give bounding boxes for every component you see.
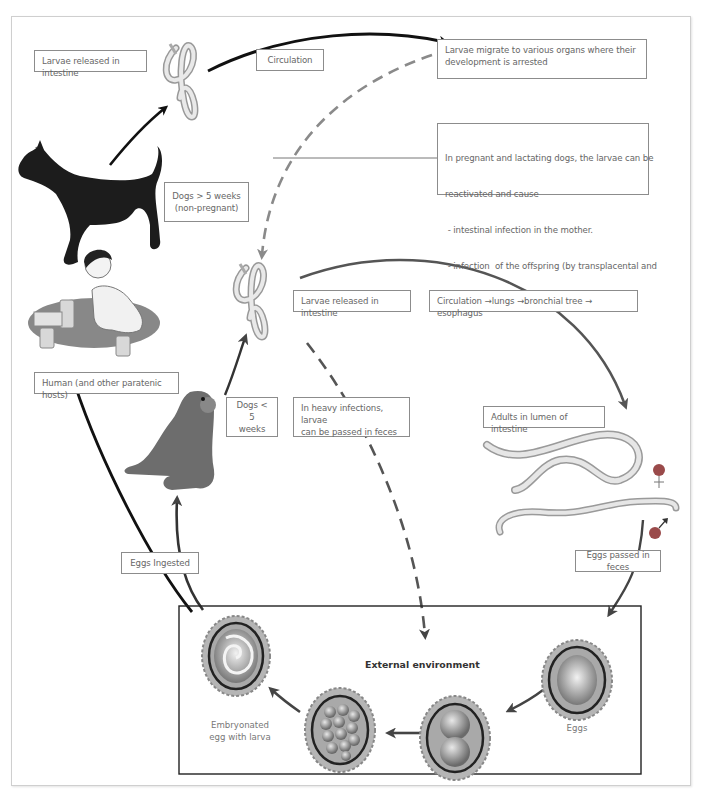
adult-worms-icon: [487, 435, 676, 532]
label-adults-lumen: Adults in lumen of intestine: [483, 406, 605, 428]
male-symbol-icon: [649, 518, 668, 539]
adult-dog-icon: [18, 140, 162, 265]
human-host-icon: [28, 250, 160, 356]
egg-two-cell-icon: [420, 696, 490, 780]
label-human-paratenic-hosts: Human (and other paratenic hosts): [34, 372, 179, 394]
label-eggs-passed-feces: Eggs passed in feces: [575, 550, 661, 572]
label-embryonated-egg: Embryonated egg with larva: [196, 719, 284, 743]
label-circulation-route: Circulation →lungs →bronchial tree → eso…: [429, 290, 638, 312]
label-eggs: Eggs: [562, 722, 592, 734]
egg-stage-arrow-1: [510, 690, 543, 710]
label-circulation: Circulation: [256, 49, 324, 71]
label-larvae-migrate: Larvae migrate to various organs where t…: [437, 39, 647, 79]
puppy-icon: [125, 391, 216, 490]
puppy-to-larva-arrow: [225, 338, 245, 395]
label-larvae-released-top: Larvae released in intestine: [34, 50, 147, 72]
egg-morula-icon: [305, 688, 375, 772]
larva-icon-mid: [236, 264, 265, 337]
label-heavy-infections: In heavy infections, larvae can be passe…: [293, 397, 410, 437]
label-eggs-ingested: Eggs Ingested: [121, 552, 199, 574]
egg-embryonated-icon: [202, 616, 270, 696]
female-symbol-icon: [653, 464, 665, 488]
label-larvae-released-mid: Larvae released in intestine: [293, 290, 411, 312]
reactivation-dashed-arrow: [262, 55, 432, 255]
label-dogs-under-5-weeks: Dogs < 5 weeks: [226, 397, 278, 437]
label-pregnant-lactating-note: In pregnant and lactating dogs, the larv…: [437, 123, 649, 195]
egg-unembryonated-icon: [542, 640, 612, 720]
dog-to-larva-arrow: [110, 108, 165, 165]
circulation-arrow: [208, 34, 445, 71]
label-dogs-over-5-weeks: Dogs > 5 weeks (non-pregnant): [164, 182, 249, 222]
external-environment-title: External environment: [365, 659, 480, 670]
egg-stage-arrow-3: [272, 690, 300, 712]
larva-icon-top: [166, 44, 195, 117]
heavy-infection-dashed-arrow: [307, 343, 425, 635]
